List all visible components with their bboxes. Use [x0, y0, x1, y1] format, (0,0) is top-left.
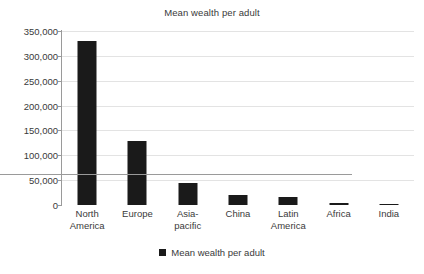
- bar-slot: [263, 31, 313, 205]
- y-axis-tick-label: 350,000: [2, 26, 58, 37]
- bar-slot: [112, 31, 162, 205]
- bar[interactable]: [228, 195, 247, 205]
- y-axis-tick-label: 0: [2, 200, 58, 211]
- y-axis-tick-label: 250,000: [2, 75, 58, 86]
- bar-slot: [313, 31, 363, 205]
- legend-label: Mean wealth per adult: [171, 247, 264, 258]
- plot-area: [62, 31, 414, 205]
- x-axis-tick-label: Asia-pacific: [163, 208, 213, 231]
- bar[interactable]: [78, 41, 97, 205]
- bar[interactable]: [128, 141, 147, 205]
- bar-slot: [62, 31, 112, 205]
- x-axis-line: [0, 174, 352, 175]
- x-axis-tick-label: India: [364, 208, 414, 220]
- bar[interactable]: [279, 197, 298, 205]
- bar-chart: Mean wealth per adult 050,000100,000150,…: [0, 0, 424, 274]
- legend-swatch-icon: [159, 249, 166, 256]
- x-axis-tick-label: LatinAmerica: [263, 208, 313, 231]
- x-axis-labels: NorthAmericaEuropeAsia-pacificChinaLatin…: [62, 208, 414, 238]
- x-axis-tick-label: NorthAmerica: [62, 208, 112, 231]
- chart-title: Mean wealth per adult: [0, 7, 424, 18]
- bar[interactable]: [329, 203, 348, 205]
- y-axis-tick-label: 200,000: [2, 100, 58, 111]
- bar-slot: [163, 31, 213, 205]
- y-axis-tick-mark: [58, 205, 62, 206]
- y-axis-tick-label: 300,000: [2, 50, 58, 61]
- y-axis-tick-label: 150,000: [2, 125, 58, 136]
- chart-legend: Mean wealth per adult: [0, 247, 424, 258]
- bar-slot: [364, 31, 414, 205]
- bar[interactable]: [178, 183, 197, 205]
- bar[interactable]: [379, 204, 398, 205]
- y-axis-tick-label: 100,000: [2, 150, 58, 161]
- bar-slot: [213, 31, 263, 205]
- x-axis-tick-label: Europe: [112, 208, 162, 220]
- x-axis-tick-label: China: [213, 208, 263, 220]
- x-axis-tick-label: Africa: [313, 208, 363, 220]
- y-axis-tick-label: 50,000: [2, 175, 58, 186]
